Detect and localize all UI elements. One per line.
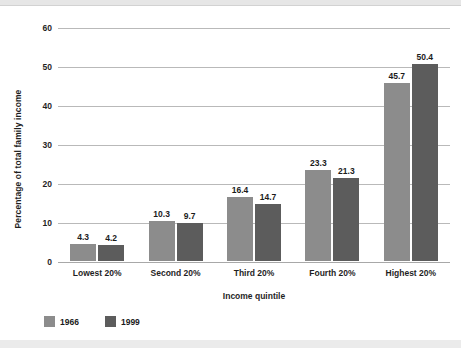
bar[interactable]: 16.4 <box>227 197 253 261</box>
bar[interactable]: 50.4 <box>412 64 438 261</box>
y-tick-label-20: 20 <box>43 179 52 189</box>
legend-item[interactable]: 1999 <box>105 316 140 327</box>
legend-swatch-icon <box>44 316 55 327</box>
x-category-label: Lowest 20% <box>73 268 122 278</box>
y-axis-title: Percentage of total family income <box>13 64 24 254</box>
bar-value-label: 45.7 <box>389 71 406 81</box>
bar-group: 10.39.7 <box>149 28 203 262</box>
bar-value-label: 23.3 <box>310 158 327 168</box>
bar-group: 16.414.7 <box>227 28 281 262</box>
bar-value-label: 14.7 <box>260 192 277 202</box>
bar-value-label: 4.3 <box>77 232 89 242</box>
x-category-label: Highest 20% <box>386 268 437 278</box>
bar[interactable]: 14.7 <box>255 204 281 261</box>
x-axis-title: Income quintile <box>58 291 450 301</box>
bar-value-label: 10.3 <box>153 209 170 219</box>
x-category-label: Fourth 20% <box>309 268 355 278</box>
y-tick-label-50: 50 <box>43 62 52 72</box>
page-edge-band-bottom <box>0 340 461 348</box>
legend-item[interactable]: 1966 <box>44 316 79 327</box>
y-tick-label-40: 40 <box>43 101 52 111</box>
bar-chart-figure: Percentage of total family income 010203… <box>0 6 461 340</box>
bar[interactable]: 45.7 <box>384 83 410 261</box>
x-category-label: Second 20% <box>151 268 201 278</box>
bar-group: 45.750.4 <box>384 28 438 262</box>
chart-legend: 19661999 <box>44 316 140 327</box>
bar[interactable]: 23.3 <box>305 170 331 261</box>
y-tick-label-0: 0 <box>47 257 52 267</box>
bar-group: 23.321.3 <box>305 28 359 262</box>
bar-value-label: 50.4 <box>417 52 434 62</box>
bar[interactable]: 21.3 <box>333 178 359 261</box>
y-tick-label-30: 30 <box>43 140 52 150</box>
legend-swatch-icon <box>105 316 116 327</box>
y-tick-label-10: 10 <box>43 218 52 228</box>
x-category-label: Third 20% <box>234 268 275 278</box>
bar-value-label: 21.3 <box>338 166 355 176</box>
y-tick-label-60: 60 <box>43 23 52 33</box>
y-axis-title-text: Percentage of total family income <box>14 90 24 229</box>
plot-area: 01020304050604.34.210.39.716.414.723.321… <box>58 28 450 262</box>
legend-label: 1966 <box>60 317 79 327</box>
bar[interactable]: 10.3 <box>149 221 175 261</box>
bar[interactable]: 9.7 <box>177 223 203 261</box>
bar[interactable]: 4.3 <box>70 244 96 261</box>
bar-value-label: 16.4 <box>232 185 249 195</box>
bar-value-label: 9.7 <box>184 211 196 221</box>
gridline-0: 0 <box>58 262 450 263</box>
legend-label: 1999 <box>121 317 140 327</box>
bar-group: 4.34.2 <box>70 28 124 262</box>
bar[interactable]: 4.2 <box>98 245 124 261</box>
bar-value-label: 4.2 <box>105 233 117 243</box>
